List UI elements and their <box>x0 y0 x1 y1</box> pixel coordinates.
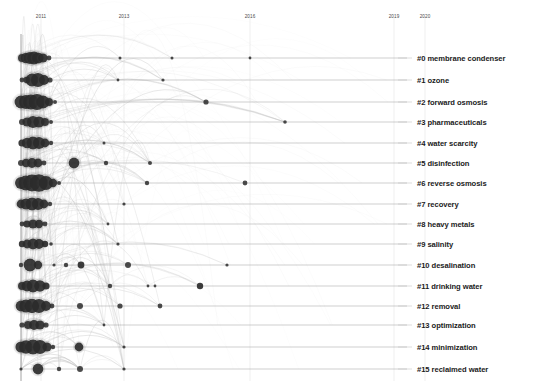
citation-node[interactable] <box>53 100 57 104</box>
citation-node[interactable] <box>49 141 53 145</box>
citation-node[interactable] <box>69 158 80 169</box>
citation-node[interactable] <box>161 78 164 81</box>
citation-node[interactable] <box>78 262 85 269</box>
cluster-label-12[interactable]: #12 removal <box>417 302 460 311</box>
citation-node[interactable] <box>35 220 43 228</box>
citation-node[interactable] <box>57 181 61 185</box>
citation-node[interactable] <box>43 222 48 227</box>
citation-node[interactable] <box>148 161 152 165</box>
cocitation-link <box>49 2 180 58</box>
cocitation-link <box>148 277 200 286</box>
citation-node[interactable] <box>52 263 55 266</box>
citation-node[interactable] <box>171 57 174 60</box>
citation-node[interactable] <box>243 181 248 186</box>
citation-node[interactable] <box>64 263 68 267</box>
cluster-label-13[interactable]: #13 optimization <box>417 321 476 330</box>
cluster-label-2[interactable]: #2 forward osmosis <box>417 98 487 107</box>
citation-node[interactable] <box>47 77 52 82</box>
citation-node[interactable] <box>34 159 43 168</box>
cluster-label-9[interactable]: #9 salinity <box>417 240 453 249</box>
citation-node[interactable] <box>122 345 125 348</box>
citation-node[interactable] <box>108 284 112 288</box>
citation-node[interactable] <box>119 57 122 60</box>
cluster-label-3[interactable]: #3 pharmaceuticals <box>417 118 487 127</box>
chart-canvas: 20112013201620192020 #0 membrane condens… <box>0 0 547 389</box>
cluster-label-0[interactable]: #0 membrane condenser <box>417 54 505 63</box>
citation-node[interactable] <box>77 303 83 309</box>
citation-node[interactable] <box>42 282 49 289</box>
cluster-label-5[interactable]: #5 disinfection <box>417 159 469 168</box>
citation-node[interactable] <box>154 285 157 288</box>
citation-node[interactable] <box>75 343 84 352</box>
x-tick-label-2019: 2019 <box>389 14 400 19</box>
citation-node[interactable] <box>122 202 125 205</box>
citation-node[interactable] <box>57 367 61 371</box>
citation-node[interactable] <box>40 200 49 209</box>
citation-node[interactable] <box>49 120 53 124</box>
citation-node[interactable] <box>49 242 53 246</box>
cocitation-link <box>43 79 206 102</box>
citation-node[interactable] <box>116 242 119 245</box>
x-tick-label-2013: 2013 <box>119 14 130 19</box>
citation-node[interactable] <box>48 202 52 206</box>
cluster-label-11[interactable]: #11 drinking water <box>417 282 482 291</box>
citation-node[interactable] <box>77 366 83 372</box>
cocitation-link <box>74 105 332 325</box>
cocitation-link <box>53 335 124 347</box>
citation-node[interactable] <box>225 263 228 266</box>
citation-node[interactable] <box>125 262 131 268</box>
citation-node[interactable] <box>41 139 50 148</box>
cluster-row <box>17 278 407 295</box>
citation-node[interactable] <box>45 98 53 106</box>
citation-node[interactable] <box>42 342 51 351</box>
citation-node[interactable] <box>283 120 287 124</box>
cluster-label-7[interactable]: #7 recovery <box>417 200 459 209</box>
citation-node[interactable] <box>51 345 55 349</box>
citation-node[interactable] <box>42 241 48 247</box>
citation-node[interactable] <box>41 301 51 311</box>
cocitation-link <box>118 30 218 325</box>
citation-node[interactable] <box>158 304 163 309</box>
citation-node[interactable] <box>203 99 208 104</box>
cocitation-link <box>34 17 351 58</box>
cluster-label-8[interactable]: #8 heavy metals <box>417 220 475 229</box>
citation-node[interactable] <box>103 324 106 327</box>
citation-node[interactable] <box>42 161 47 166</box>
x-tick-label-2011: 2011 <box>36 14 46 19</box>
citation-node[interactable] <box>38 53 47 62</box>
cluster-label-10[interactable]: #10 desalination <box>417 261 475 270</box>
cocitation-link-group <box>21 1 388 369</box>
citation-node[interactable] <box>47 56 52 61</box>
citation-node[interactable] <box>145 181 149 185</box>
cluster-label-15[interactable]: #15 reclaimed water <box>417 365 488 374</box>
citation-node[interactable] <box>49 179 57 187</box>
cluster-row <box>20 71 407 89</box>
citation-node[interactable] <box>43 322 48 327</box>
cluster-row <box>19 257 407 274</box>
cluster-label-1[interactable]: #1 ozone <box>417 76 449 85</box>
citation-node[interactable] <box>107 223 110 226</box>
cocitation-link <box>37 70 345 143</box>
citation-node[interactable] <box>19 367 22 370</box>
citation-node[interactable] <box>41 118 49 126</box>
citation-node[interactable] <box>35 320 44 329</box>
citation-node[interactable] <box>104 161 108 165</box>
citation-node[interactable] <box>117 303 122 308</box>
citation-node[interactable] <box>197 283 203 289</box>
citation-node[interactable] <box>147 285 150 288</box>
citation-node[interactable] <box>103 142 106 145</box>
citation-node[interactable] <box>249 57 252 60</box>
cocitation-link <box>54 166 374 265</box>
cluster-row <box>19 362 407 376</box>
citation-node[interactable] <box>34 261 42 269</box>
cocitation-link <box>54 46 257 265</box>
cluster-label-4[interactable]: #4 water scarcity <box>417 139 477 148</box>
citation-node[interactable] <box>117 79 120 82</box>
cocitation-link <box>26 39 369 347</box>
citation-node[interactable] <box>122 367 125 370</box>
citation-node[interactable] <box>50 304 55 309</box>
cluster-label-14[interactable]: #14 minimization <box>417 343 477 352</box>
citation-node[interactable] <box>33 364 44 375</box>
cocitation-link <box>106 117 216 163</box>
cluster-label-6[interactable]: #6 reverse osmosis <box>417 179 487 188</box>
